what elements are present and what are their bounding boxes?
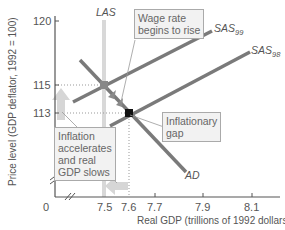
sas99-label: SAS99 [214, 22, 244, 37]
callout-line: and real [58, 154, 112, 166]
callout-line: accelerates [58, 142, 112, 154]
wage-rate-callout: Wage rate begins to rise [134, 9, 204, 39]
y-tick-label-113: 113 [33, 107, 51, 119]
y-tick-label-115: 115 [33, 79, 51, 91]
las-label: LAS [96, 6, 116, 18]
x-tick-label-75: 7.5 [97, 201, 112, 213]
callout-line: begins to rise [138, 24, 200, 36]
gap-leader-line [130, 115, 164, 127]
y-axis-title: Price level (GDP deflator, 1992 = 100) [7, 17, 18, 186]
x-tick-label-81: 8.1 [244, 201, 259, 213]
callout-line: GDP slows [58, 166, 112, 178]
inflationary-gap-callout: Inflationary gap [162, 112, 221, 142]
inflation-accelerates-callout: Inflation accelerates and real GDP slows [54, 127, 116, 181]
callout-line: Wage rate [138, 12, 200, 24]
sas99-line [73, 31, 212, 102]
ad-label: AD [184, 169, 200, 181]
x-tick-label-77: 7.7 [147, 201, 162, 213]
callout-line: gap [166, 127, 217, 139]
callout-line: Inflation [58, 130, 112, 142]
x-tick-label-76: 7.6 [121, 201, 136, 213]
sas98-label: SAS98 [251, 44, 281, 59]
x-axis-title: Real GDP (trillions of 1992 dollars) [137, 215, 285, 226]
origin-label: 0 [43, 201, 49, 213]
callout-line: Inflationary [166, 115, 217, 127]
x-tick-label-79: 7.9 [195, 201, 210, 213]
new-equilibrium-point [100, 81, 108, 89]
y-tick-label-120: 120 [33, 15, 51, 27]
